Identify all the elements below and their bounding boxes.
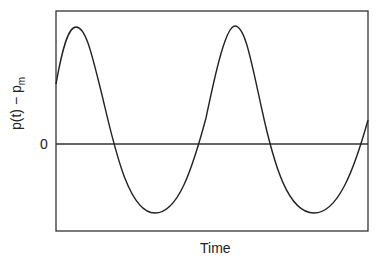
y-tick-zero: 0 bbox=[40, 136, 48, 152]
pressure-curve bbox=[56, 26, 368, 213]
x-axis-label: Time bbox=[200, 240, 231, 256]
chart-plot bbox=[0, 0, 384, 265]
plot-frame bbox=[56, 11, 368, 231]
y-axis-label: p(t) − pm bbox=[8, 70, 28, 130]
